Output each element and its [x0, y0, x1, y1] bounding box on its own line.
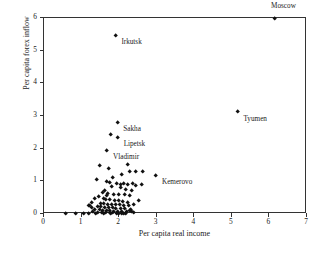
x-tick-label: 2 — [116, 218, 120, 225]
point-label-kemerovo: Kemerovo — [162, 179, 192, 186]
x-tick — [193, 213, 194, 217]
x-tick-label: 3 — [154, 218, 158, 225]
x-tick — [231, 213, 232, 217]
point-label-vladimir: Vladimir — [113, 154, 139, 161]
y-tick-label: 5 — [27, 46, 37, 53]
x-axis-title: Per capita real income — [43, 230, 306, 238]
point-label-tyumen: Tyumen — [243, 116, 266, 123]
x-tick-label: 1 — [79, 218, 83, 225]
x-tick-label: 4 — [191, 218, 195, 225]
x-tick-label: 6 — [267, 218, 271, 225]
x-tick-label: 5 — [229, 218, 233, 225]
y-tick-label: 0 — [27, 209, 37, 216]
x-tick-label: 7 — [304, 218, 308, 225]
y-tick-label: 3 — [27, 111, 37, 118]
plot-area: MoscowIrkutskTyumenSakhaLipetskVladimirK… — [43, 17, 306, 213]
y-tick — [40, 213, 44, 214]
x-tick — [43, 213, 44, 217]
y-tick-label: 1 — [27, 177, 37, 184]
y-tick-label: 6 — [27, 13, 37, 20]
point-label-irkutsk: Irkutsk — [121, 39, 141, 46]
point-label-sakha: Sakha — [123, 126, 141, 133]
y-tick-label: 4 — [27, 79, 37, 86]
x-tick — [268, 213, 269, 217]
scatter-chart-figure: Per capita forex inflow Per capita real … — [0, 0, 326, 261]
point-label-moscow: Moscow — [271, 3, 296, 10]
x-tick — [306, 213, 307, 217]
x-tick — [156, 213, 157, 217]
point-labels-layer: MoscowIrkutskTyumenSakhaLipetskVladimirK… — [44, 18, 305, 212]
point-label-lipetsk: Lipetsk — [124, 141, 146, 148]
x-tick-label: 0 — [41, 218, 45, 225]
y-tick-label: 2 — [27, 144, 37, 151]
